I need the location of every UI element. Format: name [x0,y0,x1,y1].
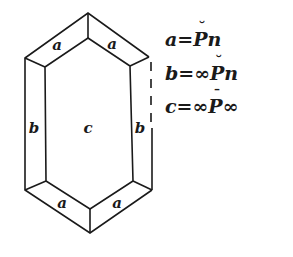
edge-lower-right [133,181,152,190]
face-label-c: c [83,119,92,137]
formula-symbol-wrap: ˘P [193,30,207,49]
edge-upper-right [130,57,149,66]
breve-accent: ˘ [198,21,206,36]
crystal-diagram: a a b c b a a [0,0,293,257]
face-label-a-bottom-left: a [57,194,67,212]
formula-equals: = [178,62,194,84]
edge-upper-left [25,58,45,67]
formula-b: b=∞˘Pn [165,64,238,83]
formula-prefix: ∞ [193,95,209,117]
macron-accent: ¯ [213,88,221,103]
formula-symbol-wrap: ˘P [210,64,224,83]
formula-face: a [165,28,177,50]
breve-accent: ˘ [215,55,223,70]
formula-equals: = [177,28,193,50]
formula-equals: = [177,95,193,117]
formula-symbol-wrap: ¯P [208,97,222,116]
face-label-b-right: b [135,119,146,137]
formula-suffix: ∞ [223,95,239,117]
formula-a: a=˘Pn [165,30,221,49]
formula-prefix: ∞ [194,62,210,84]
face-label-a-bottom-right: a [112,194,122,212]
formula-face: b [165,62,178,84]
formula-suffix: n [224,62,238,84]
face-label-a-top-left: a [52,36,62,54]
face-label-a-top-right: a [107,35,117,53]
formula-face: c [165,95,177,117]
formula-suffix: n [208,28,222,50]
formula-c: c=∞¯P∞ [165,97,238,116]
edge-lower-left [25,181,46,190]
face-label-b-left: b [29,119,40,137]
